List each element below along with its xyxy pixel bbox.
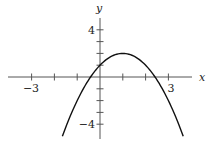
x-tick-label-3: 3 [168, 82, 175, 95]
x-tick-label-neg3: −3 [23, 82, 39, 95]
y-axis-label: y [95, 2, 103, 15]
x-axis-label: x [199, 71, 206, 84]
parabola-chart: x y −3 3 4 −4 [0, 0, 208, 144]
y-tick-label-neg4: −4 [79, 118, 95, 131]
y-tick-label-4: 4 [88, 24, 95, 37]
